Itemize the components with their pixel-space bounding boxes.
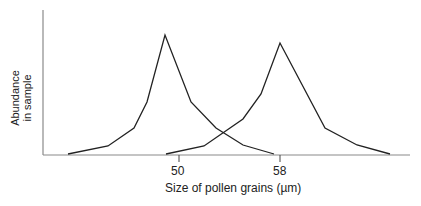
pollen-size-chart: Abundance in sample 50 58 Size of pollen… (0, 0, 421, 206)
x-tick-label-50: 50 (171, 164, 184, 178)
x-tick-label-58: 58 (273, 164, 286, 178)
y-axis-label: Abundance in sample (8, 54, 34, 144)
y-axis-label-line1: Abundance (9, 53, 21, 143)
x-axis-label: Size of pollen grains (µm) (165, 181, 301, 195)
curve-peak-50 (68, 35, 274, 154)
curve-peak-58 (166, 43, 390, 154)
chart-plot-area (0, 0, 421, 206)
y-axis-label-line2: in sample (21, 53, 33, 143)
